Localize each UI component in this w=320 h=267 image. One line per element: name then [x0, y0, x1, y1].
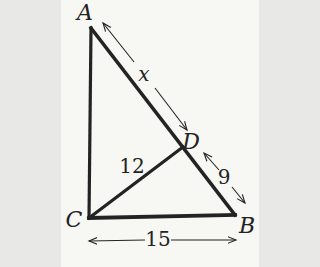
measure-label-DB: 9 [218, 167, 231, 187]
triangle-geometry-diagram: A B C D x 9 12 15 [61, 0, 259, 267]
measure-label-AD: x [138, 64, 149, 84]
triangle-sides [89, 28, 235, 218]
dim-AD-segment-0 [103, 23, 134, 62]
dim-CB-segment-0 [89, 240, 145, 241]
vertex-label-C: C [66, 209, 83, 231]
dim-AD-segment-1 [155, 88, 187, 130]
measure-label-CD: 12 [119, 156, 144, 176]
dim-DB-segment-1 [232, 187, 245, 203]
side-CB [89, 215, 235, 218]
vertex-label-D: D [182, 131, 200, 153]
measure-label-CB: 15 [145, 229, 170, 249]
vertex-label-B: B [239, 215, 255, 237]
side-AC [89, 28, 91, 218]
side-AB [91, 28, 235, 215]
vertex-label-A: A [77, 2, 93, 24]
